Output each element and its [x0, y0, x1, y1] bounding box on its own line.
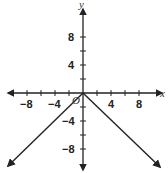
- x-tick-label: −8: [20, 98, 33, 110]
- x-tick-label: −4: [48, 98, 61, 110]
- origin-label: O: [72, 94, 80, 106]
- graph-right-branch: [83, 93, 160, 167]
- y-tick-label: 8: [68, 31, 74, 43]
- x-tick-label: 4: [108, 98, 115, 110]
- y-tick-label: 4: [68, 59, 75, 71]
- y-tick-label: −8: [62, 143, 75, 155]
- y-axis-label: y: [78, 0, 84, 10]
- x-tick-label: 8: [136, 98, 142, 110]
- coordinate-plane: y x −8 −4 4 8 O 8 4 −4 −8: [0, 0, 168, 173]
- y-tick-label: −4: [62, 115, 75, 127]
- x-axis-label: x: [159, 87, 165, 99]
